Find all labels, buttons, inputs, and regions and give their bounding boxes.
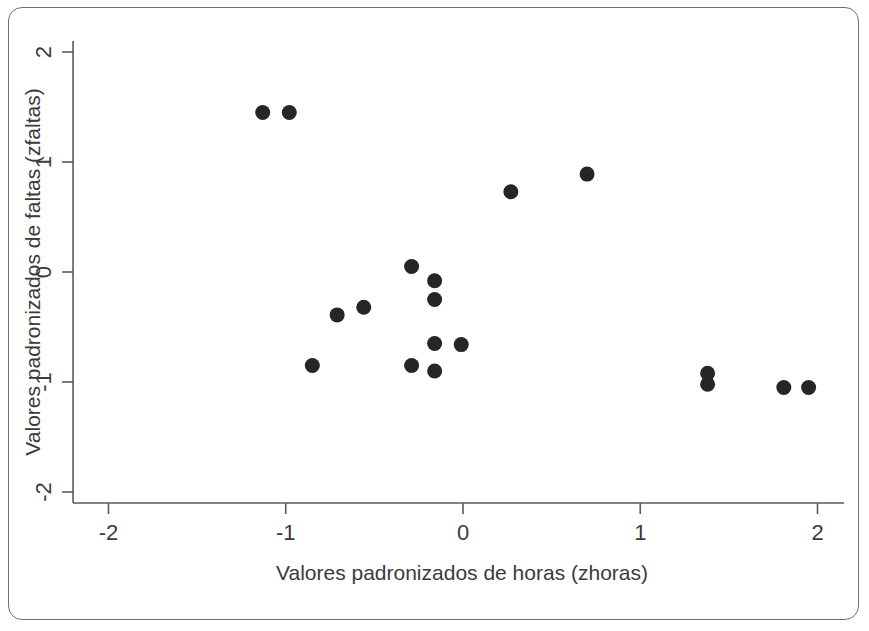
y-tick-label-4: 2: [31, 46, 56, 58]
y-axis-title: Valores padronizados de faltas (zfaltas): [21, 88, 44, 455]
x-tick-label-2: 0: [457, 520, 469, 545]
data-point-5: [427, 273, 442, 288]
x-tick-label-1: -1: [276, 520, 296, 545]
data-points-group: [255, 105, 816, 395]
data-point-17: [801, 380, 816, 395]
x-tick-label-3: 1: [634, 520, 646, 545]
data-point-2: [503, 184, 518, 199]
x-axis-title: Valores padronizados de horas (zhoras): [276, 561, 648, 584]
tick-labels-group: -2-1012-2-1012: [31, 46, 824, 545]
data-point-15: [700, 377, 715, 392]
data-point-3: [580, 167, 595, 182]
y-tick-label-0: -2: [31, 482, 56, 502]
data-point-0: [255, 105, 270, 120]
data-point-1: [282, 105, 297, 120]
chart-svg: -2-1012-2-1012 Valores padronizados de h…: [0, 0, 869, 631]
scatter-plot-figure: -2-1012-2-1012 Valores padronizados de h…: [0, 0, 869, 631]
data-point-12: [404, 358, 419, 373]
x-tick-label-0: -2: [99, 520, 119, 545]
x-tick-label-4: 2: [811, 520, 823, 545]
axes-group: [73, 41, 844, 503]
data-point-11: [305, 358, 320, 373]
data-point-8: [330, 307, 345, 322]
data-point-7: [356, 300, 371, 315]
data-point-13: [427, 364, 442, 379]
data-point-6: [427, 292, 442, 307]
data-point-10: [454, 337, 469, 352]
plot-area: -2-1012-2-1012 Valores padronizados de h…: [0, 0, 869, 631]
data-point-9: [427, 336, 442, 351]
data-point-4: [404, 259, 419, 274]
data-point-16: [776, 380, 791, 395]
